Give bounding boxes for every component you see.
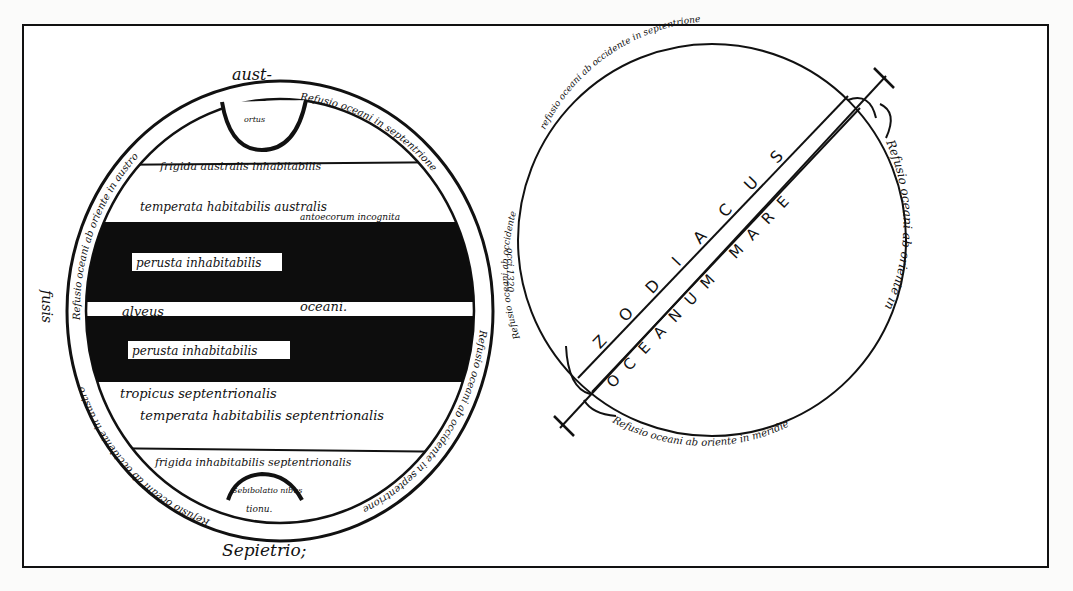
label-bottom-bay-sub: tionu. [246,504,273,514]
zone-alveus: alveus [122,304,164,319]
zone-perusta-lower: perusta inhabitabilis [132,344,258,358]
between-label: occi.1320 [505,248,515,292]
label-top-bay: ortus [244,115,265,124]
zone-oceani: oceani. [300,299,347,314]
zone-frigida-australis: frigida australis inhabitabilis [159,160,322,173]
diagram-canvas: aust- Sepietrio; fusis ortus Sebibolatio… [0,0,1073,591]
zone-temperata-septentrionalis: temperata habitabilis septentrionalis [140,408,384,423]
label-fusis: fusis [39,289,55,323]
label-septentrio: Sepietrio; [222,540,306,560]
right-globe [518,44,906,436]
zone-frigida-septentrionalis: frigida inhabitabilis septentrionalis [154,456,352,469]
zone-perusta-upper: perusta inhabitabilis [136,256,262,270]
label-bottom-bay: Sebibolatio nibus [232,486,302,495]
label-aust: aust- [232,65,272,84]
zone-temperata-australis: temperata habitabilis australis [140,200,327,214]
zone-temperata-australis-sub: antoecorum incognita [300,212,400,222]
zone-tropicus: tropicus septentrionalis [120,386,277,401]
